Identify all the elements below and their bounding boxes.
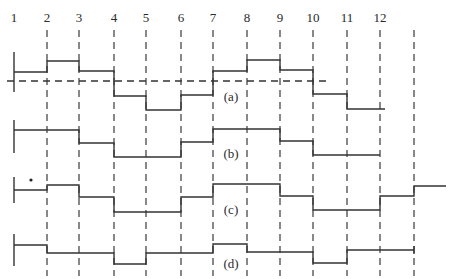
waveform-diagram: 123456789101112 (a)(b)(c)(d): [0, 0, 457, 279]
row-label: (d): [223, 256, 238, 271]
column-number: 8: [244, 10, 251, 25]
waveform-row: (d): [14, 234, 414, 271]
column-number: 2: [44, 10, 51, 25]
waveform-row: (a): [7, 52, 385, 110]
column-number: 6: [178, 10, 185, 25]
column-number: 10: [307, 10, 320, 25]
row-label: (c): [224, 202, 238, 217]
column-number: 7: [210, 10, 217, 25]
row-label: (a): [224, 89, 238, 104]
waveform-row: (b): [14, 120, 380, 161]
staircase-waveform: [14, 244, 414, 264]
staircase-waveform: [14, 129, 380, 157]
column-number: 1: [11, 10, 18, 25]
column-number: 5: [143, 10, 150, 25]
column-number: 3: [76, 10, 83, 25]
row-label: (b): [223, 146, 238, 161]
staircase-waveform: [14, 60, 385, 110]
column-number: 4: [111, 10, 118, 25]
column-number: 12: [374, 10, 387, 25]
marker-dot: [29, 178, 32, 181]
column-numbers: 123456789101112: [11, 10, 387, 25]
column-number: 11: [341, 10, 354, 25]
column-number: 9: [277, 10, 284, 25]
